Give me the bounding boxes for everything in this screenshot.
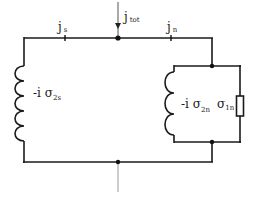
node-bottom <box>116 160 120 164</box>
node-inner-top <box>210 64 214 68</box>
label-sigma1n: σ1n <box>217 97 235 112</box>
label-jn: jn <box>165 20 178 34</box>
node-inner-bottom <box>210 140 214 144</box>
label-js: js <box>56 20 68 34</box>
inductor-s-icon <box>15 66 24 141</box>
label-jtot: jtot <box>122 10 140 24</box>
resistor-icon <box>237 96 244 116</box>
label-sigma2n: -i σ2n <box>181 97 210 114</box>
inductor-n-icon <box>165 72 174 135</box>
arrow-down-icon <box>115 23 121 29</box>
circuit-diagram: js jtot jn -i σ2s -i σ2n σ1n <box>0 0 255 200</box>
label-sigma2s: -i σ2s <box>33 86 61 102</box>
node-top <box>115 35 120 40</box>
